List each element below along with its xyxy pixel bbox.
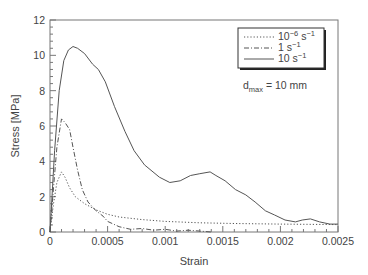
series-line-solid: [50, 47, 338, 233]
y-tick-label: 4: [39, 155, 45, 167]
y-tick-label: 8: [39, 85, 45, 97]
x-axis-ticks: 00.00050.0010.00150.0020.0025: [47, 226, 354, 247]
data-series: [50, 47, 338, 233]
x-tick-label: 0.002: [267, 235, 293, 247]
y-tick-label: 10: [33, 49, 45, 61]
x-tick-label: 0.0015: [207, 235, 239, 247]
x-tick-label: 0.001: [152, 235, 178, 247]
series-line-dash-dot: [50, 119, 211, 232]
y-tick-label: 6: [39, 120, 45, 132]
y-tick-label: 12: [33, 14, 45, 26]
x-tick-label: 0.0025: [322, 235, 354, 247]
dmax-annotation: dmax = 10 mm: [243, 79, 307, 94]
y-axis-label: Stress [MPa]: [9, 95, 21, 158]
x-axis-label: Strain: [180, 255, 209, 267]
y-tick-label: 2: [39, 191, 45, 203]
series-line-dotted: [50, 172, 338, 232]
y-tick-label: 0: [39, 226, 45, 238]
stress-strain-chart: 00.00050.0010.00150.0020.0025 024681012 …: [0, 0, 368, 275]
x-tick-label: 0: [47, 235, 53, 247]
x-tick-label: 0.0005: [92, 235, 124, 247]
legend: 10−6 s−11 s−110 s−1: [238, 28, 326, 70]
